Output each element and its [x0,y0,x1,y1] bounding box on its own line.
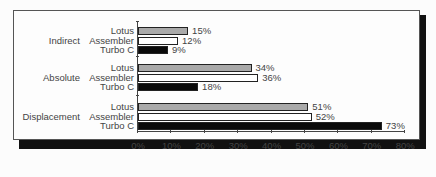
value-label: 73% [386,121,405,131]
series-label: Turbo C [80,121,134,131]
series-label: Turbo C [80,45,134,55]
x-axis-tick-label: 80% [396,140,415,151]
x-axis-tick-label: 50% [295,140,314,151]
bar-absolute-assembler [138,74,258,82]
bar-indirect-turbo-c [138,46,168,54]
x-axis-tick-label: 40% [262,140,281,151]
x-axis-tick [170,130,171,133]
x-axis-tick [371,130,372,133]
x-axis-tick [337,130,338,133]
x-axis-tick-label: 60% [329,140,348,151]
x-axis-tick-label: 0% [131,140,145,151]
group-label-displacement: Displacement [6,112,80,122]
value-label: 9% [172,45,186,55]
bar-absolute-turbo-c [138,83,198,91]
x-axis-tick-label: 20% [195,140,214,151]
value-label: 52% [316,112,335,122]
y-axis-tick [136,95,139,96]
series-label: Turbo C [80,82,134,92]
value-label: 18% [202,82,221,92]
bar-indirect-lotus [138,27,188,35]
x-axis-tick-label: 10% [162,140,181,151]
bar-displacement-turbo-c [138,122,382,130]
x-axis-tick [137,130,138,133]
bar-displacement-assembler [138,113,312,121]
x-axis-tick [304,130,305,133]
bar-displacement-lotus [138,103,308,111]
y-axis-tick [136,21,139,22]
group-label-absolute: Absolute [11,73,80,83]
group-label-indirect: Indirect [11,36,80,46]
x-axis-tick-label: 70% [362,140,381,151]
bar-absolute-lotus [138,64,252,72]
x-axis-tick-label: 30% [229,140,248,151]
value-label: 36% [262,73,281,83]
y-axis-tick [136,56,139,57]
x-axis-tick [237,130,238,133]
x-axis-tick [204,130,205,133]
x-axis-tick [271,130,272,133]
